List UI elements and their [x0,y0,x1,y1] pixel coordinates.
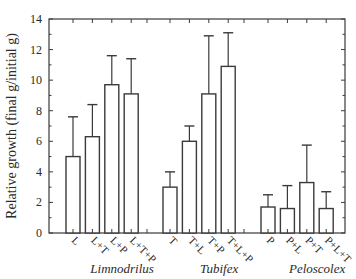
bar [182,141,196,233]
y-tick-label: 8 [36,104,42,118]
x-category-label: P+T [303,234,325,256]
y-tick-label: 10 [30,73,42,87]
x-category-label: P [265,234,278,247]
bar [202,94,216,233]
x-category-label: P+L [284,234,306,256]
y-tick-label: 6 [36,134,42,148]
y-tick-label: 14 [30,12,42,26]
group-label: Peloscolex [288,261,346,276]
bar [221,66,235,233]
x-category-label: T+P [205,234,227,256]
bar [85,137,99,233]
x-category-label: L+P [108,234,130,256]
x-category-label: T [167,234,180,247]
y-axis-label: Relative growth (final g/initial g) [4,26,24,226]
x-category-label: L [70,234,83,247]
x-category-label: T+L [186,234,209,257]
bar [66,157,80,233]
bar [163,187,177,233]
y-tick-label: 2 [36,195,42,209]
group-label: Tubifex [200,261,239,276]
bar [105,85,119,233]
y-tick-label: 4 [36,165,42,179]
group-label: Limnodrilus [89,261,154,276]
bar [300,183,314,233]
bar-chart: 02468101214LL+TL+PL+T+PLimnodrilusTT+LT+… [0,0,356,279]
x-category-label: L+T [89,234,112,257]
y-tick-label: 12 [30,43,42,57]
y-tick-label: 0 [36,226,42,240]
bar [124,94,138,233]
